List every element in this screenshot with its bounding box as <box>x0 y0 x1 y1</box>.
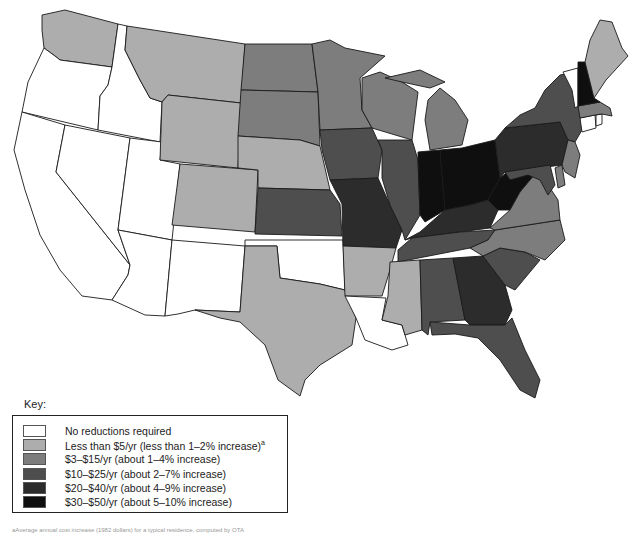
legend-swatch <box>23 453 46 465</box>
state-CO <box>172 164 258 232</box>
key-title: Key: <box>24 398 46 410</box>
legend-label: $20–$40/yr (about 4–9% increase) <box>65 482 226 494</box>
state-KS <box>255 188 342 236</box>
footnote-marker: a <box>261 439 265 446</box>
legend-item-20-40: $20–$40/yr (about 4–9% increase) <box>23 481 226 495</box>
state-WY <box>160 95 241 168</box>
legend-label: $10–$25/yr (about 2–7% increase) <box>65 468 226 480</box>
state-RI <box>596 114 602 126</box>
legend-item-30-50: $30–$50/yr (about 5–10% increase) <box>23 495 232 509</box>
state-FL <box>430 318 540 398</box>
legend-label: No reductions required <box>65 425 171 437</box>
legend-swatch <box>23 425 46 437</box>
legend-swatch <box>23 468 46 480</box>
us-states-map <box>0 0 636 400</box>
legend-item-3-15: $3–$15/yr (about 1–4% increase) <box>23 452 220 466</box>
legend-item-10-25: $10–$25/yr (about 2–7% increase) <box>23 467 226 481</box>
state-NM <box>165 240 245 316</box>
state-ME <box>585 20 628 98</box>
legend-swatch <box>23 482 46 494</box>
state-ND <box>241 44 318 92</box>
legend-label: $3–$15/yr (about 1–4% increase) <box>65 453 220 465</box>
state-IA <box>320 128 382 180</box>
legend-label: Less than $5/yr (less than 1–2% increase… <box>65 439 265 452</box>
legend-swatch <box>23 496 46 508</box>
legend-label: $30–$50/yr (about 5–10% increase) <box>65 496 232 508</box>
footnote: aAverage annual cost increase (1982 doll… <box>12 527 244 533</box>
legend-item-none: No reductions required <box>23 424 171 438</box>
legend-item-lt5: Less than $5/yr (less than 1–2% increase… <box>23 438 265 452</box>
legend-swatch <box>23 439 46 451</box>
legend: No reductions required Less than $5/yr (… <box>12 415 288 513</box>
